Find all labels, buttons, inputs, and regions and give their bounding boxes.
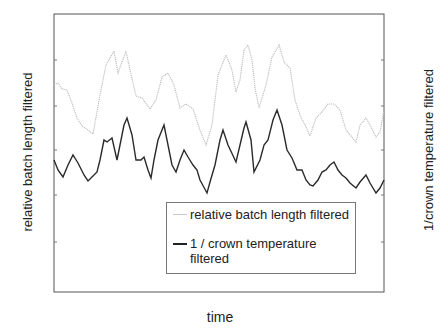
legend-label: relative batch length filtered: [190, 207, 349, 222]
legend-item-crown-temperature: 1 / crown temperature filtered: [173, 236, 316, 266]
series-relative-batch-length: [54, 45, 384, 145]
gray-line-swatch-icon: [173, 214, 187, 215]
series-crown-temperature: [54, 110, 384, 193]
legend: relative batch length filtered 1 / crown…: [166, 202, 356, 274]
legend-item-batch-length: relative batch length filtered: [173, 207, 349, 222]
black-line-swatch-icon: [173, 243, 187, 245]
line-chart: [0, 0, 448, 336]
legend-label: 1 / crown temperature filtered: [190, 236, 316, 266]
y-axis-label-right: 1/crown temperature filtered: [421, 69, 436, 231]
x-axis-label: time: [207, 309, 233, 325]
y-axis-label-left: relative batch length filtered: [20, 73, 35, 232]
